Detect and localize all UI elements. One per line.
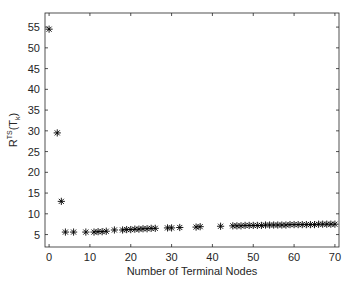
plot-area (45, 13, 339, 247)
y-tick-label: 25 (28, 146, 40, 158)
x-tick-label: 30 (165, 251, 177, 263)
y-tick-label: 35 (28, 104, 40, 116)
y-tick-label: 15 (28, 187, 40, 199)
data-point-marker (197, 223, 204, 230)
scatter-chart: 010203040506070510152025303540455055 Num… (0, 0, 352, 285)
y-tick-label: 30 (28, 125, 40, 137)
x-tick-label: 20 (125, 251, 137, 263)
data-point-marker (217, 223, 224, 230)
data-point-marker (152, 225, 159, 232)
x-tick-label: 60 (288, 251, 300, 263)
data-point-marker (82, 228, 89, 235)
x-tick-label: 10 (84, 251, 96, 263)
data-point-marker (103, 228, 110, 235)
data-point-marker (70, 228, 77, 235)
data-point-marker (111, 226, 118, 233)
y-tick-label: 5 (34, 229, 40, 241)
data-point-marker (58, 198, 65, 205)
y-tick-label: 45 (28, 63, 40, 75)
y-axis-label: RTS(Tk) (6, 113, 21, 147)
x-axis-label: Number of Terminal Nodes (127, 265, 258, 277)
x-tick-label: 40 (206, 251, 218, 263)
y-tick-label: 55 (28, 21, 40, 33)
y-tick-label: 10 (28, 208, 40, 220)
data-point-marker (168, 224, 175, 231)
y-tick-label: 20 (28, 166, 40, 178)
data-point-marker (62, 228, 69, 235)
data-point-marker (45, 26, 52, 33)
data-point-marker (176, 224, 183, 231)
x-tick-label: 50 (247, 251, 259, 263)
x-tick-label: 70 (329, 251, 341, 263)
x-tick-label: 0 (46, 251, 52, 263)
data-point-marker (54, 129, 61, 136)
data-point-marker (331, 221, 338, 228)
y-tick-label: 50 (28, 42, 40, 54)
y-tick-label: 40 (28, 83, 40, 95)
